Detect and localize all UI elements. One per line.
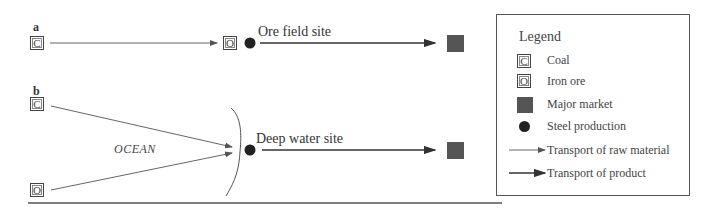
legend-steel-production-label: Steel production [547, 119, 626, 134]
deep-water-site-label: Deep water site [256, 131, 343, 147]
legend-steel-production-icon [519, 121, 530, 132]
steel-production-a-icon [245, 38, 256, 49]
steel-production-b-icon [245, 145, 256, 156]
legend: Legend C Coal O Iron ore Major market St… [496, 14, 690, 196]
legend-iron-ore-icon: O [517, 74, 531, 88]
coastline [226, 108, 241, 196]
legend-product-label: Transport of product [547, 166, 646, 181]
legend-arrows [501, 141, 551, 201]
iron-ore-site-a-icon: O [223, 36, 237, 50]
panel-a-label: a [33, 20, 39, 35]
legend-raw-material-label: Transport of raw material [547, 143, 670, 158]
coal-source-a-icon: C [30, 36, 44, 50]
market-a-icon [447, 35, 464, 52]
legend-iron-ore-label: Iron ore [547, 74, 585, 89]
legend-coal-icon: C [517, 54, 531, 68]
market-b-icon [447, 142, 464, 159]
coal-source-b-icon: C [30, 97, 44, 111]
ocean-label: OCEAN [114, 142, 156, 157]
ore-field-site-label: Ore field site [258, 24, 331, 40]
legend-market-icon [517, 97, 533, 113]
raw-material-arrow-coal-b [51, 106, 232, 147]
raw-material-arrow-ore-b [51, 153, 232, 190]
legend-market-label: Major market [547, 97, 613, 112]
iron-ore-source-b-icon: O [30, 183, 44, 197]
legend-coal-label: Coal [547, 53, 570, 68]
legend-title: Legend [519, 29, 561, 45]
